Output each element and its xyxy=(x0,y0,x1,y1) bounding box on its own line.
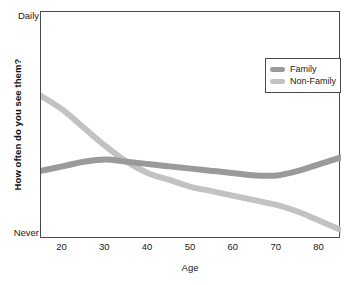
chart-figure: Daily Never How often do you see them? 2… xyxy=(0,0,355,285)
x-tick-label: 20 xyxy=(48,241,74,253)
legend-swatch-non-family xyxy=(270,79,285,84)
plot-area xyxy=(40,11,340,238)
legend-label-family: Family xyxy=(290,64,317,75)
x-tick-label: 50 xyxy=(177,241,203,253)
x-tick-label: 30 xyxy=(91,241,117,253)
x-axis-ticks: 20304050607080 xyxy=(40,241,340,253)
legend-label-non-family: Non-Family xyxy=(290,76,336,87)
legend-item[interactable]: Family xyxy=(270,64,336,75)
y-axis-title: How often do you see them? xyxy=(12,11,26,238)
x-tick-label: 80 xyxy=(306,241,332,253)
legend-item[interactable]: Non-Family xyxy=(270,76,336,87)
x-tick-label: 40 xyxy=(134,241,160,253)
legend-swatch-family xyxy=(270,67,285,72)
plot-curves xyxy=(41,12,341,239)
chart-legend: Family Non-Family xyxy=(265,58,341,93)
x-axis-title: Age xyxy=(40,262,340,273)
x-tick-label: 70 xyxy=(263,241,289,253)
series-line-family xyxy=(41,157,341,176)
x-tick-label: 60 xyxy=(220,241,246,253)
